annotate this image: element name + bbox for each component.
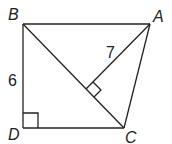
length-label-bd: 6	[8, 72, 17, 89]
geometry-diagram: B A D C 6 7	[0, 0, 172, 144]
point-label-a: A	[152, 8, 164, 25]
right-angle-marker-f	[93, 82, 101, 97]
length-label-af: 7	[106, 44, 115, 61]
segment-altitude-af	[86, 24, 150, 89]
point-label-c: C	[125, 129, 137, 144]
point-label-b: B	[8, 6, 19, 23]
right-angle-marker-d	[23, 113, 38, 128]
segment-ac	[124, 24, 150, 128]
point-label-d: D	[8, 126, 20, 143]
